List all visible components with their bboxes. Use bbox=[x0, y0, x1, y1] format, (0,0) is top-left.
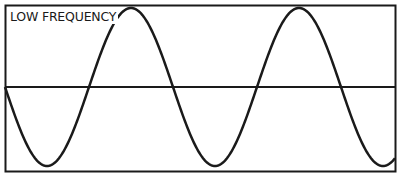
frame-border bbox=[6, 6, 396, 172]
frequency-label: LOW FREQUENCY bbox=[10, 9, 118, 24]
waveform-diagram bbox=[0, 0, 398, 175]
